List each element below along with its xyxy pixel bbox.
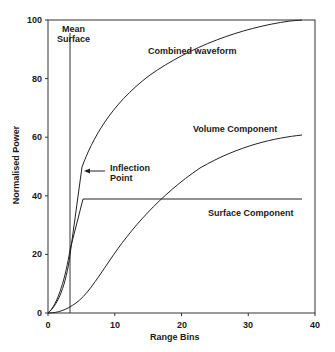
y-tick-40: 40: [18, 191, 42, 201]
x-tick-20: 20: [170, 320, 194, 330]
y-tick-80: 80: [18, 74, 42, 84]
y-tick-100: 100: [18, 15, 42, 25]
inflection-label-line2: Point: [110, 173, 133, 183]
mean-surface-label-line1: Mean: [62, 24, 85, 34]
y-tick-60: 60: [18, 132, 42, 142]
y-tick-0: 0: [18, 308, 42, 318]
combined-waveform-line: [48, 20, 302, 313]
x-tick-40: 40: [303, 320, 327, 330]
volume-component-label: Volume Component: [193, 124, 277, 134]
y-axis-title: Normalised Power: [11, 115, 21, 215]
x-tick-30: 30: [236, 320, 260, 330]
volume-component-line: [48, 135, 302, 313]
surface-component-label: Surface Component: [208, 208, 294, 218]
arrow-head-icon: [84, 169, 90, 174]
inflection-label-line1: Inflection: [110, 163, 150, 173]
y-tick-20: 20: [18, 249, 42, 259]
plot-frame: [48, 20, 315, 313]
x-tick-0: 0: [36, 320, 60, 330]
mean-surface-label-line2: Surface: [57, 34, 90, 44]
x-tick-10: 10: [103, 320, 127, 330]
x-axis-title: Range Bins: [150, 332, 200, 342]
chart: 100 80 60 40 20 0 0 10 20 30 40 Normalis…: [0, 0, 335, 352]
combined-waveform-label: Combined waveform: [148, 46, 237, 56]
